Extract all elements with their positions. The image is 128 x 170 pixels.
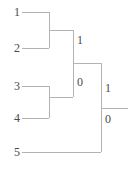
leaf-label-1: 1: [6, 6, 20, 18]
leaf-label-5: 5: [6, 146, 20, 158]
branch-label-root-1: 1: [105, 82, 111, 94]
leaf-label-4: 4: [6, 112, 20, 124]
merge-connectors: [49, 12, 128, 152]
branch-label-lower-0: 0: [77, 76, 83, 88]
leaf-lines: [22, 12, 101, 152]
leaf-label-3: 3: [6, 80, 20, 92]
branch-label-upper-1: 1: [77, 34, 83, 46]
leaf-label-2: 2: [6, 42, 20, 54]
dendrogram-figure: 1 2 3 4 5 1 0 1 0: [0, 0, 128, 170]
branch-label-root-0: 0: [105, 113, 111, 125]
